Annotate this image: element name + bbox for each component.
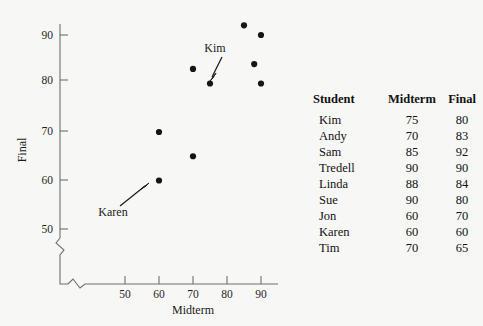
cell-student: Tredell <box>313 160 383 176</box>
annotation-kim: Kim <box>204 41 226 81</box>
cell-midterm: 90 <box>383 192 442 208</box>
annotation-label-kim: Kim <box>204 41 226 55</box>
data-point <box>207 80 213 86</box>
cell-student: Kim <box>313 112 383 128</box>
y-tick-label: 60 <box>42 174 54 186</box>
cell-student: Karen <box>313 224 383 240</box>
table-row: Andy7083 <box>313 128 483 144</box>
cell-student: Sam <box>313 144 383 160</box>
cell-final: 80 <box>441 112 483 128</box>
x-tick-label: 90 <box>255 288 267 300</box>
x-tick-label: 60 <box>153 288 165 300</box>
cell-final: 92 <box>441 144 483 160</box>
y-tick-label: 50 <box>42 223 54 235</box>
column-header-final: Final <box>441 92 483 112</box>
table-row: Karen6060 <box>313 224 483 240</box>
x-axis-title: Midterm <box>172 303 215 317</box>
column-header-student: Student <box>313 92 383 112</box>
cell-midterm: 60 <box>383 224 442 240</box>
table-row: Jon6070 <box>313 208 483 224</box>
data-point <box>241 22 247 28</box>
y-axis-title: Final <box>15 137 29 162</box>
y-axis-break-icon <box>56 238 64 272</box>
cell-midterm: 85 <box>383 144 442 160</box>
scores-table: Student Midterm Final Kim7580Andy7083Sam… <box>313 92 483 256</box>
cell-final: 83 <box>441 128 483 144</box>
cell-midterm: 70 <box>383 240 442 256</box>
y-tick-label: 80 <box>42 74 54 86</box>
axis-corner <box>60 272 68 284</box>
y-tick-label: 90 <box>42 29 54 41</box>
cell-final: 90 <box>441 160 483 176</box>
cell-student: Andy <box>313 128 383 144</box>
y-tick-label: 70 <box>42 125 54 137</box>
x-tick-label: 70 <box>187 288 199 300</box>
data-point <box>156 177 162 183</box>
annotation-label-karen: Karen <box>98 205 127 219</box>
table-row: Linda8884 <box>313 176 483 192</box>
scatter-plot-figure: 90 80 70 60 50 50 60 70 80 90 Midterm Fi… <box>0 0 483 326</box>
cell-student: Linda <box>313 176 383 192</box>
cell-final: 70 <box>441 208 483 224</box>
annotation-karen: Karen <box>98 183 149 219</box>
data-point <box>258 80 264 86</box>
cell-final: 80 <box>441 192 483 208</box>
x-axis-ticks <box>125 276 261 284</box>
data-point <box>251 61 257 67</box>
cell-student: Tim <box>313 240 383 256</box>
table-row: Sam8592 <box>313 144 483 160</box>
data-point <box>156 129 162 135</box>
table-header-row: Student Midterm Final <box>313 92 483 112</box>
table-row: Tim7065 <box>313 240 483 256</box>
table-row: Kim7580 <box>313 112 483 128</box>
cell-midterm: 75 <box>383 112 442 128</box>
x-tick-label: 80 <box>221 288 233 300</box>
x-tick-label: 50 <box>119 288 131 300</box>
cell-midterm: 70 <box>383 128 442 144</box>
cell-final: 65 <box>441 240 483 256</box>
table-row: Sue9080 <box>313 192 483 208</box>
cell-final: 84 <box>441 176 483 192</box>
cell-final: 60 <box>441 224 483 240</box>
x-axis-tick-labels: 50 60 70 80 90 <box>119 288 267 300</box>
cell-midterm: 60 <box>383 208 442 224</box>
data-point <box>190 153 196 159</box>
cell-midterm: 90 <box>383 160 442 176</box>
data-point <box>258 32 264 38</box>
x-axis-break-icon <box>68 279 110 288</box>
y-axis-ticks <box>60 35 68 229</box>
table-row: Tredell9090 <box>313 160 483 176</box>
cell-midterm: 88 <box>383 176 442 192</box>
cell-student: Sue <box>313 192 383 208</box>
data-point <box>190 66 196 72</box>
cell-student: Jon <box>313 208 383 224</box>
column-header-midterm: Midterm <box>383 92 442 112</box>
y-axis-tick-labels: 90 80 70 60 50 <box>42 29 54 235</box>
